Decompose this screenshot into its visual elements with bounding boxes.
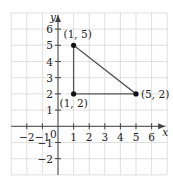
- x-tick-label: 1: [70, 131, 77, 143]
- point-label: (1, 2): [60, 97, 88, 109]
- y-tick-label: 2: [46, 88, 53, 100]
- data-point: [133, 91, 138, 96]
- data-point: [71, 91, 76, 96]
- coordinate-plane: xy−2−1123456−2−11234560(1, 5)(5, 2)(1, 2…: [0, 0, 173, 185]
- data-point: [71, 43, 76, 48]
- x-tick-label: 4: [117, 131, 124, 143]
- x-tick-label: 6: [148, 131, 155, 143]
- point-label: (5, 2): [141, 88, 169, 100]
- origin-label: 0: [50, 128, 57, 140]
- point-label: (1, 5): [64, 28, 92, 40]
- x-axis-label: x: [162, 126, 168, 138]
- plot-svg: xy−2−1123456−2−11234560(1, 5)(5, 2)(1, 2…: [0, 0, 173, 185]
- y-tick-label: 5: [46, 39, 53, 51]
- y-tick-label: 3: [46, 72, 53, 84]
- y-tick-label: 1: [46, 104, 53, 116]
- y-tick-label: 4: [46, 56, 53, 68]
- x-tick-label: 2: [86, 131, 93, 143]
- x-tick-label: 5: [133, 131, 140, 143]
- y-tick-label: 6: [46, 23, 53, 35]
- x-tick-label: 3: [101, 131, 108, 143]
- y-axis-label: y: [49, 11, 57, 23]
- y-tick-label: −2: [38, 153, 53, 165]
- x-tick-label: −2: [19, 131, 34, 143]
